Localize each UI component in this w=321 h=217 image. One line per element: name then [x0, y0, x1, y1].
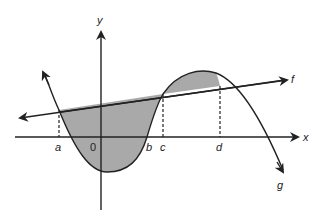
- point-d-label: d: [216, 141, 223, 153]
- point-b-label: b: [146, 141, 152, 153]
- function-f-label: f: [291, 73, 295, 85]
- shaded-region-a-to-c: [59, 94, 163, 172]
- curve-g-start-arrow: [43, 72, 49, 85]
- origin-label: 0: [90, 141, 96, 153]
- point-c-label: c: [160, 141, 166, 153]
- area-between-curves-diagram: y x 0 a b c d f g: [0, 0, 321, 217]
- y-axis-label: y: [96, 14, 104, 26]
- function-g-label: g: [277, 179, 284, 191]
- point-a-label: a: [55, 141, 61, 153]
- x-axis-label: x: [302, 131, 309, 143]
